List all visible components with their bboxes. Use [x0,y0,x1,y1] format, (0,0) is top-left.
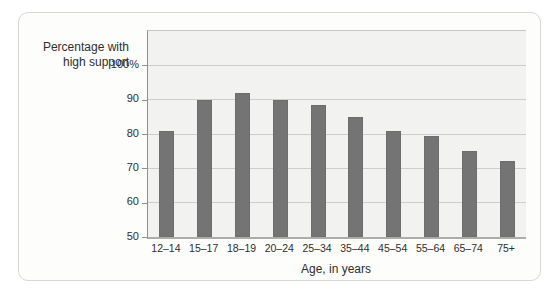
x-tick-label-45-54: 45–54 [374,242,412,254]
y-tick-mark-70 [142,168,147,169]
x-tick-label-12-14: 12–14 [147,242,185,254]
x-tick-label-25-34: 25–34 [298,242,336,254]
bar-25-34 [311,105,326,237]
bar-35-44 [348,117,363,237]
bar-slot-18-19 [224,31,262,237]
x-tick-label-55-64: 55–64 [412,242,450,254]
y-tick-label-90: 90 [79,92,139,105]
y-axis-tick-labels: 100%9080706050 [79,30,139,236]
bar-slot-12-14 [148,31,186,237]
y-tick-mark-100 [142,65,147,66]
y-tick-mark-50 [142,237,147,238]
bar-15-17 [197,100,212,237]
y-tick-mark-80 [142,134,147,135]
bar-45-54 [386,131,401,237]
bar-slot-75plus [488,31,526,237]
x-tick-label-35-44: 35–44 [336,242,374,254]
x-axis-title: Age, in years [147,262,525,276]
bar-12-14 [159,131,174,237]
x-tick-label-20-24: 20–24 [260,242,298,254]
bar-slot-25-34 [299,31,337,237]
y-tick-label-80: 80 [79,127,139,140]
bar-55-64 [424,136,439,237]
x-tick-label-15-17: 15–17 [185,242,223,254]
bar-slot-15-17 [186,31,224,237]
y-tick-label-60: 60 [79,195,139,208]
plot-area [147,30,526,239]
x-tick-label-75plus: 75+ [487,242,525,254]
y-tick-label-100: 100% [79,58,139,71]
bar-75plus [500,161,515,237]
y-tick-mark-90 [142,100,147,101]
bar-series [148,31,526,237]
bar-slot-55-64 [413,31,451,237]
bar-slot-45-54 [375,31,413,237]
bar-18-19 [235,93,250,237]
bar-65-74 [462,151,477,237]
chart-card: Percentage with high support 100%9080706… [18,12,541,281]
x-tick-label-18-19: 18–19 [223,242,261,254]
x-axis-tick-labels: 12–1415–1718–1920–2425–3435–4445–5455–64… [147,242,525,254]
bar-slot-20-24 [261,31,299,237]
figure-screenshot: Percentage with high support 100%9080706… [0,0,553,292]
y-tick-mark-60 [142,203,147,204]
x-tick-label-65-74: 65–74 [449,242,487,254]
y-tick-label-50: 50 [79,230,139,243]
bar-20-24 [273,100,288,237]
bar-slot-65-74 [450,31,488,237]
y-tick-label-70: 70 [79,161,139,174]
bar-slot-35-44 [337,31,375,237]
